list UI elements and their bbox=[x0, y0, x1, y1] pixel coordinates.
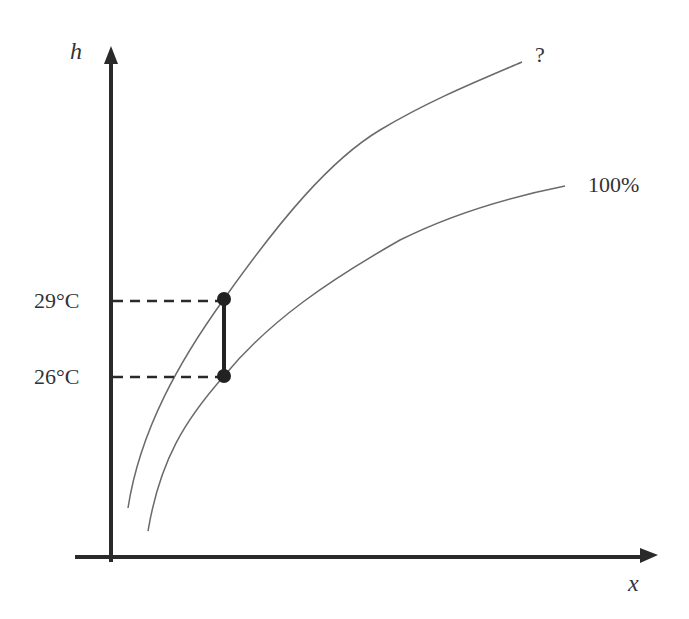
y-axis bbox=[104, 46, 118, 562]
x-axis-arrow-icon bbox=[640, 548, 658, 563]
curve-unknown-humidity bbox=[128, 62, 522, 508]
diagram-canvas bbox=[0, 0, 689, 619]
curve-saturation-100 bbox=[148, 186, 565, 531]
x-axis bbox=[75, 548, 658, 563]
x-axis-label: x bbox=[628, 570, 639, 597]
diagram: h x ? 100% 29°C 26°C bbox=[0, 0, 689, 619]
state-point-29c bbox=[217, 292, 231, 306]
y-axis-arrow-icon bbox=[104, 46, 118, 64]
temperature-label-29c: 29°C bbox=[34, 288, 79, 314]
temperature-label-26c: 26°C bbox=[34, 364, 79, 390]
curve-label-unknown: ? bbox=[535, 42, 545, 68]
y-axis-label: h bbox=[70, 38, 82, 65]
curve-label-saturation: 100% bbox=[588, 172, 639, 198]
state-point-26c bbox=[217, 369, 231, 383]
